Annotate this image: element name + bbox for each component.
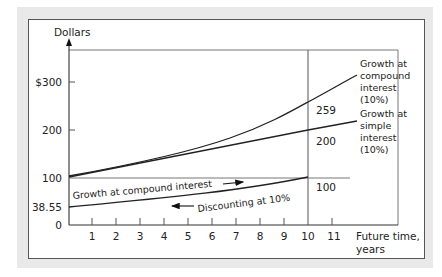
x-tick-6: 6 (209, 230, 216, 242)
value-259: 259 (316, 104, 336, 116)
svg-text:interest: interest (360, 82, 397, 93)
x-tick-5: 5 (185, 230, 192, 242)
x-tick-9: 9 (281, 230, 288, 242)
y-axis-label: Dollars (54, 26, 91, 38)
simple-interest-label: Growth at simple interest (10%) (360, 108, 407, 155)
growth-compound-annotation: Growth at compound interest (72, 178, 212, 201)
x-axis-label-line2: years (356, 243, 385, 255)
x-tick-4: 4 (161, 230, 168, 242)
svg-text:Growth at: Growth at (360, 58, 407, 69)
simple-interest-line (69, 121, 357, 177)
y-tick-100: 100 (42, 172, 62, 184)
y-tick-38-55: 38.55 (32, 201, 62, 213)
y-axis-arrow-icon (66, 38, 72, 46)
svg-text:(10%): (10%) (360, 144, 389, 155)
x-tick-labels: 1 2 3 4 5 6 7 8 9 10 11 (89, 230, 341, 242)
value-100: 100 (316, 181, 336, 193)
x-tick-2: 2 (113, 230, 120, 242)
y-tick-300: $300 (35, 76, 62, 88)
x-tick-8: 8 (257, 230, 264, 242)
discounting-annotation: Discounting at 10% (197, 192, 291, 214)
svg-text:compound: compound (360, 70, 410, 81)
x-axis-label-line1: Future time, (356, 230, 420, 242)
x-ticks (92, 218, 332, 225)
growth-arrow-icon (223, 182, 243, 184)
y-tick-0: 0 (55, 219, 62, 231)
svg-text:interest: interest (360, 132, 397, 143)
x-tick-1: 1 (89, 230, 96, 242)
x-tick-11: 11 (327, 230, 340, 242)
compound-interest-curve (69, 75, 357, 176)
svg-text:Growth at: Growth at (360, 108, 407, 119)
chart-canvas: Dollars $300 200 100 38.55 0 1 2 3 4 5 6… (0, 0, 442, 277)
compound-interest-label: Growth at compound interest (10%) (360, 58, 410, 105)
x-tick-7: 7 (233, 230, 240, 242)
x-tick-10: 10 (301, 230, 314, 242)
svg-text:(10%): (10%) (360, 94, 389, 105)
y-tick-200: 200 (42, 124, 62, 136)
value-200: 200 (316, 135, 336, 147)
x-tick-3: 3 (137, 230, 144, 242)
svg-text:simple: simple (360, 120, 392, 131)
